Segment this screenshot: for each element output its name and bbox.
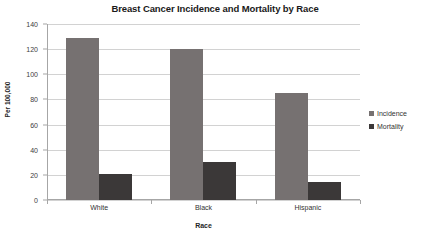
y-axis-tick-label: 20 xyxy=(30,171,38,178)
bars xyxy=(151,24,255,200)
plot-area xyxy=(47,24,360,200)
x-axis-tick-label: White xyxy=(47,204,151,211)
y-axis-tick-label: 140 xyxy=(26,21,38,28)
bar-group xyxy=(256,24,360,200)
bars xyxy=(47,24,151,200)
bar-groups xyxy=(47,24,360,200)
legend-item-mortality[interactable]: Mortality xyxy=(369,123,407,130)
bar-black-mortality[interactable] xyxy=(203,162,236,200)
bar-chart: Breast Cancer Incidence and Mortality by… xyxy=(0,0,430,236)
y-axis-tick-label: 60 xyxy=(30,121,38,128)
bar-hispanic-incidence[interactable] xyxy=(275,93,308,200)
y-axis-tick-label: 120 xyxy=(26,46,38,53)
bar-group xyxy=(47,24,151,200)
legend: IncidenceMortality xyxy=(369,110,407,136)
y-axis-tick-labels: 020406080100120140 xyxy=(0,24,43,200)
bar-black-incidence[interactable] xyxy=(170,49,203,200)
chart-title: Breast Cancer Incidence and Mortality by… xyxy=(0,3,430,14)
x-axis-title: Race xyxy=(47,222,360,229)
y-axis-tick-label: 40 xyxy=(30,146,38,153)
legend-label: Mortality xyxy=(377,123,403,130)
y-axis-tick-label: 80 xyxy=(30,96,38,103)
x-axis-tick xyxy=(360,200,361,204)
x-axis-tick-label: Black xyxy=(151,204,255,211)
legend-swatch-icon xyxy=(369,124,374,129)
y-axis-tick-label: 100 xyxy=(26,71,38,78)
bar-white-mortality[interactable] xyxy=(99,174,132,200)
bar-group xyxy=(151,24,255,200)
bar-hispanic-mortality[interactable] xyxy=(308,182,341,200)
bars xyxy=(256,24,360,200)
legend-item-incidence[interactable]: Incidence xyxy=(369,110,407,117)
bar-white-incidence[interactable] xyxy=(66,38,99,200)
x-axis-tick-labels: WhiteBlackHispanic xyxy=(47,204,360,211)
legend-swatch-icon xyxy=(369,111,374,116)
y-axis-tick-label: 0 xyxy=(34,197,38,204)
x-axis-tick-label: Hispanic xyxy=(256,204,360,211)
legend-label: Incidence xyxy=(377,110,407,117)
